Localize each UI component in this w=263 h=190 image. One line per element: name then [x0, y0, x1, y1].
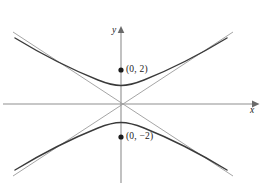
point-label-lower: (0, −2) [126, 131, 153, 141]
point-marker-lower [118, 134, 123, 139]
graph-canvas [0, 0, 263, 190]
x-axis-label: x [250, 105, 254, 115]
hyperbola-figure: (0, 2) (0, −2) y x [0, 0, 263, 190]
y-axis-label: y [112, 25, 116, 35]
point-marker-upper [118, 67, 123, 72]
point-label-upper: (0, 2) [126, 64, 148, 74]
y-axis-arrow-icon [118, 26, 125, 33]
